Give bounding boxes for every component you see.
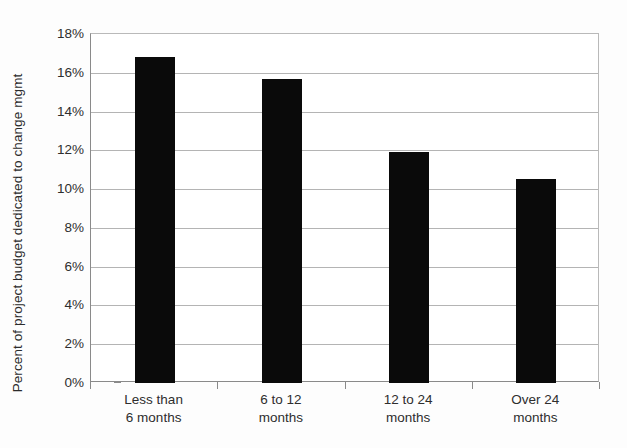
y-axis-tick-mark: [114, 382, 121, 383]
bar[interactable]: [135, 57, 175, 383]
y-axis-tick-label: 4%: [38, 297, 84, 312]
y-axis-tick-label: 6%: [38, 258, 84, 273]
x-axis-tick-mark: [599, 382, 600, 389]
y-axis-tick-label: 10%: [38, 181, 84, 196]
x-axis-tick-mark: [90, 382, 91, 389]
x-axis-tick-mark: [345, 382, 346, 389]
bar[interactable]: [389, 152, 429, 383]
y-axis-tick-label: 14%: [38, 103, 84, 118]
bar[interactable]: [262, 79, 302, 383]
bar-chart: Percent of project budget dedicated to c…: [0, 0, 627, 448]
y-axis-tick-label: 0%: [38, 375, 84, 390]
y-axis-tick-labels: 18%16%14%12%10%8%6%4%2%0%: [30, 0, 84, 448]
y-axis-tick-label: 2%: [38, 336, 84, 351]
bar[interactable]: [516, 179, 556, 383]
y-axis-title: Percent of project budget dedicated to c…: [4, 58, 30, 408]
y-axis-tick-label: 18%: [38, 26, 84, 41]
x-axis-category-label: 6 to 12 months: [217, 391, 344, 427]
y-axis-tick-label: 16%: [38, 64, 84, 79]
x-axis-tick-mark: [217, 382, 218, 389]
y-axis-tick-label: 12%: [38, 142, 84, 157]
x-axis-category-label: Less than 6 months: [90, 391, 217, 427]
x-axis-tick-mark: [472, 382, 473, 389]
x-axis-category-label: 12 to 24 months: [345, 391, 472, 427]
plot-area: [90, 33, 599, 382]
x-axis-category-label: Over 24 months: [472, 391, 599, 427]
y-axis-tick-label: 8%: [38, 219, 84, 234]
